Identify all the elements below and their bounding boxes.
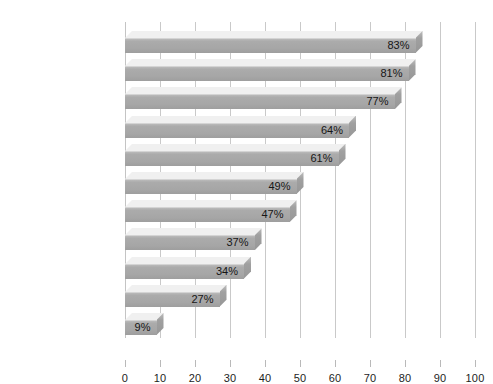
bar-top-face <box>125 59 416 66</box>
x-tick-label-100: 100 <box>455 372 493 384</box>
bar-top-edge <box>125 38 416 39</box>
x-tick-mark-60 <box>335 360 336 367</box>
x-tick-mark-40 <box>265 360 266 367</box>
bar-top-face <box>125 257 251 264</box>
bar-value-label: 49% <box>255 180 291 193</box>
x-tick-mark-100 <box>475 360 476 367</box>
bar-value-label: 64% <box>307 124 343 137</box>
bar-top-face <box>125 87 402 94</box>
x-tick-label-70: 70 <box>350 372 390 384</box>
gridline-90 <box>440 22 441 338</box>
gridline-100 <box>475 22 476 338</box>
bar-value-label: 47% <box>248 208 284 221</box>
bar-value-label: 27% <box>178 293 214 306</box>
bar-top-face <box>125 144 346 151</box>
x-tick-label-0: 0 <box>105 372 145 384</box>
x-tick-mark-0 <box>125 360 126 367</box>
x-tick-mark-90 <box>440 360 441 367</box>
bar-value-label: 9% <box>115 321 151 334</box>
x-tick-mark-10 <box>160 360 161 367</box>
bar-value-label: 77% <box>353 95 389 108</box>
bar-value-label: 34% <box>202 265 238 278</box>
x-tick-label-60: 60 <box>315 372 355 384</box>
x-tick-mark-80 <box>405 360 406 367</box>
x-tick-label-50: 50 <box>280 372 320 384</box>
bar-top-face <box>125 200 297 207</box>
x-tick-label-30: 30 <box>210 372 250 384</box>
bar-top-face <box>125 172 304 179</box>
bar-top-face <box>125 228 262 235</box>
x-tick-label-20: 20 <box>175 372 215 384</box>
bar-front-face <box>125 38 416 53</box>
bar-top-face <box>125 31 423 38</box>
x-tick-mark-20 <box>195 360 196 367</box>
bar-top-face <box>125 116 356 123</box>
x-tick-mark-50 <box>300 360 301 367</box>
bar-top-face <box>125 285 227 292</box>
x-tick-label-80: 80 <box>385 372 425 384</box>
x-tick-label-90: 90 <box>420 372 460 384</box>
bar-value-label: 61% <box>297 152 333 165</box>
bar-value-label: 81% <box>367 67 403 80</box>
x-tick-mark-70 <box>370 360 371 367</box>
plot-area: 010203040506070809010083%Television81%St… <box>125 22 475 338</box>
x-tick-label-40: 40 <box>245 372 285 384</box>
bar-value-label: 37% <box>213 236 249 249</box>
bar-value-label: 83% <box>374 39 410 52</box>
x-tick-mark-30 <box>230 360 231 367</box>
x-tick-label-10: 10 <box>140 372 180 384</box>
